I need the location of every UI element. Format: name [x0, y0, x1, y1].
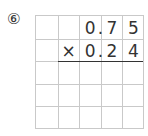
multiplier-digit: 2 — [101, 39, 123, 61]
multiplicand-decimal-point: . — [98, 16, 103, 40]
calculation-grid: 075.×024. — [35, 15, 144, 129]
multiplicand-digit — [58, 16, 80, 38]
multiplier-digit — [36, 39, 58, 61]
multiplier-digit: 4 — [122, 39, 144, 61]
problem-number: ⑥ — [7, 10, 20, 28]
grid-row-line — [36, 84, 143, 85]
multiplier-decimal-point: . — [98, 39, 103, 63]
multiplicand-digit: 5 — [122, 16, 144, 38]
grid-row-line — [36, 106, 143, 107]
multiplier-digit: × — [58, 39, 80, 61]
multiplicand-digit: 7 — [101, 16, 123, 38]
multiplicand-digit — [36, 16, 58, 38]
